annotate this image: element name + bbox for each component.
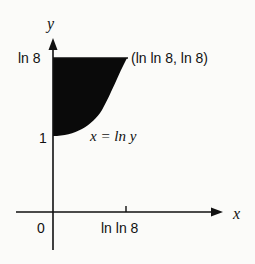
point-label: (ln ln 8, ln 8) — [131, 51, 208, 65]
y-axis-arrow-icon — [49, 38, 58, 50]
y-axis-label: y — [47, 17, 54, 31]
x-axis-label: x — [233, 207, 240, 221]
curve-label: x = ln y — [90, 129, 136, 143]
y-tick-1-label: 1 — [39, 131, 47, 145]
origin-label: 0 — [37, 221, 45, 235]
x-axis-arrow-icon — [211, 208, 223, 217]
x-tick-lnln8-label: ln ln 8 — [101, 221, 138, 235]
shaded-region — [53, 58, 127, 136]
y-tick-ln8-label: ln 8 — [18, 51, 41, 65]
